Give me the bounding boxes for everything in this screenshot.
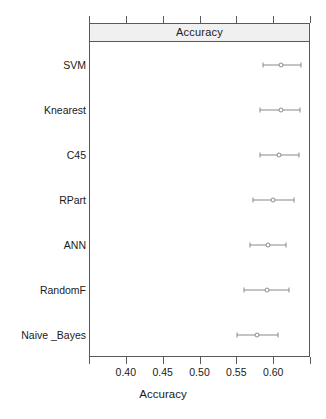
interval-cap-upper [298,152,299,157]
x-tick-top [126,16,127,23]
data-point-marker [277,152,282,157]
x-tick-top [200,16,201,23]
data-point-marker [278,62,283,67]
category-label: SVM [63,59,86,70]
data-point-marker [266,242,271,247]
interval-cap-upper [289,287,290,292]
x-tick-bottom [236,357,237,364]
x-tick-label: 0.40 [116,366,136,378]
category-label: ANN [64,239,86,250]
interval-cap-lower [252,197,253,202]
interval-cap-lower [249,242,250,247]
x-tick-bottom [310,357,311,364]
interval-cap-lower [237,332,238,337]
category-label: RPart [59,194,86,205]
category-label: RandomF [40,284,86,295]
x-tick-label: 0.60 [263,366,283,378]
interval-cap-lower [259,152,260,157]
x-axis-title: Accuracy [0,388,326,400]
interval-cap-lower [259,107,260,112]
x-tick-bottom [89,357,90,364]
data-point-marker [271,197,276,202]
x-tick-top [236,16,237,23]
data-point-marker [278,107,283,112]
dotplot-figure: Accuracy 0.400.450.500.550.60 SVMKneares… [0,0,326,419]
x-tick-top [273,16,274,23]
data-point-marker [265,287,270,292]
x-tick-top [89,16,90,23]
interval-cap-upper [301,62,302,67]
category-label: Naive _Bayes [21,329,86,340]
x-tick-bottom [126,357,127,364]
category-label: Knearest [44,104,86,115]
x-tick-top [163,16,164,23]
interval-cap-lower [244,287,245,292]
category-label: C45 [67,149,86,160]
x-tick-top [310,16,311,23]
x-tick-bottom [163,357,164,364]
x-tick-label: 0.45 [152,366,172,378]
interval-cap-upper [277,332,278,337]
interval-cap-upper [299,107,300,112]
interval-cap-upper [285,242,286,247]
x-tick-bottom [200,357,201,364]
x-tick-label: 0.50 [189,366,209,378]
panel-strip-header: Accuracy [89,23,310,42]
x-tick-label: 0.55 [226,366,246,378]
data-point-marker [254,332,259,337]
interval-cap-lower [262,62,263,67]
x-tick-bottom [273,357,274,364]
interval-cap-upper [293,197,294,202]
strip-label: Accuracy [176,27,223,38]
